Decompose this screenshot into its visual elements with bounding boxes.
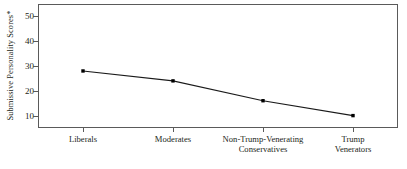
x-category-label-line: Trump <box>341 134 364 144</box>
x-category-label: Liberals <box>69 134 97 144</box>
x-tick-mark <box>263 128 264 132</box>
x-category-label-line: Conservatives <box>223 144 304 154</box>
y-axis-tick-labels: 1020304050 <box>14 0 34 169</box>
series-line <box>83 71 353 116</box>
x-category-label-line: Liberals <box>69 134 97 144</box>
data-point-marker <box>171 79 174 82</box>
x-category-label: Non-Trump-VeneratingConservatives <box>223 134 304 154</box>
x-category-label: TrumpVenerators <box>335 134 372 154</box>
y-tick-label: 30 <box>16 62 34 71</box>
data-point-marker <box>81 69 84 72</box>
x-tick-mark <box>173 128 174 132</box>
x-category-label-line: Moderates <box>155 134 191 144</box>
x-category-label: Moderates <box>155 134 191 144</box>
x-category-label-line: Non-Trump-Venerating <box>223 134 304 144</box>
y-tick-label: 40 <box>16 37 34 46</box>
chart-figure: Submissive Personality Scores* 102030405… <box>0 0 407 169</box>
data-point-marker <box>351 114 354 117</box>
y-tick-label: 50 <box>16 12 34 21</box>
plot-series-layer <box>38 4 398 128</box>
x-tick-mark <box>353 128 354 132</box>
x-tick-mark <box>83 128 84 132</box>
x-category-label-line: Venerators <box>335 144 372 154</box>
y-tick-label: 20 <box>16 86 34 95</box>
data-point-marker <box>261 99 264 102</box>
y-tick-label: 10 <box>16 111 34 120</box>
